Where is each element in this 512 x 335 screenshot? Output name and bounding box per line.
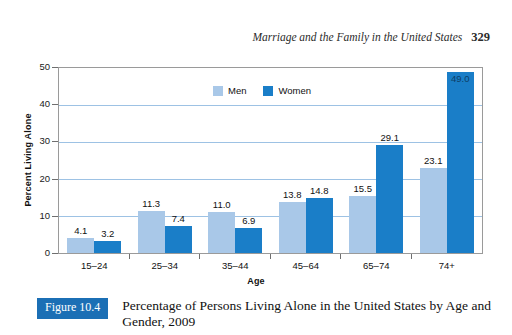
bar-group-15-24: 4.1 3.2 — [59, 68, 130, 253]
bar-value-women: 7.4 — [172, 213, 185, 224]
bar-value-men: 15.5 — [354, 183, 373, 194]
bar-wrap-women: 14.8 — [306, 68, 333, 253]
y-tick-mark-20 — [52, 179, 58, 180]
bar-women[interactable]: 49.0 — [447, 72, 474, 253]
x-tick-mark-5 — [411, 254, 412, 259]
bar-men[interactable]: 4.1 — [67, 238, 94, 253]
y-tick-label-10: 10 — [24, 210, 50, 221]
y-tick-mark-50 — [52, 67, 58, 68]
x-tick-mark-1 — [129, 254, 130, 259]
bar-value-men: 23.1 — [424, 155, 443, 166]
bar-group-65-74: 15.5 29.1 — [341, 68, 412, 253]
x-label-25-34: 25–34 — [130, 260, 201, 271]
figure-block: Percent Living Alone 50 40 30 20 10 0 Me… — [0, 55, 512, 335]
x-tick-mark-2 — [199, 254, 200, 259]
bar-men[interactable]: 13.8 — [279, 202, 306, 253]
y-tick-label-0: 0 — [24, 247, 50, 258]
bar-wrap-men: 23.1 — [420, 68, 447, 253]
bar-value-men: 11.3 — [142, 198, 160, 209]
x-label-45-64: 45–64 — [271, 260, 342, 271]
x-tick-mark-4 — [340, 254, 341, 259]
bar-value-women: 29.1 — [381, 132, 400, 143]
bar-value-women: 6.9 — [242, 215, 255, 226]
x-label-35-44: 35–44 — [200, 260, 271, 271]
bar-groups: 4.1 3.2 11.3 7.4 — [59, 68, 482, 253]
bar-wrap-women: 49.0 — [447, 68, 474, 253]
bar-men[interactable]: 11.3 — [138, 211, 165, 253]
figure-caption-text: Percentage of Persons Living Alone in th… — [122, 298, 492, 331]
bar-group-25-34: 11.3 7.4 — [130, 68, 201, 253]
bar-women[interactable]: 29.1 — [376, 145, 403, 253]
y-tick-label-20: 20 — [24, 173, 50, 184]
bar-value-men: 13.8 — [283, 189, 302, 200]
y-tick-label-50: 50 — [24, 61, 50, 72]
x-axis-labels: 15–24 25–34 35–44 45–64 65–74 74+ — [59, 260, 482, 271]
bar-wrap-women: 3.2 — [94, 68, 121, 253]
x-label-15-24: 15–24 — [59, 260, 130, 271]
page-number: 329 — [471, 30, 490, 44]
running-head: Marriage and the Family in the United St… — [252, 30, 490, 45]
bar-women[interactable]: 3.2 — [94, 241, 121, 253]
x-label-65-74: 65–74 — [341, 260, 412, 271]
bar-men[interactable]: 23.1 — [420, 168, 447, 254]
y-tick-mark-30 — [52, 141, 58, 142]
bar-value-women: 3.2 — [101, 228, 114, 239]
bar-wrap-women: 6.9 — [235, 68, 262, 253]
bar-men[interactable]: 15.5 — [349, 196, 376, 253]
y-tick-mark-40 — [52, 104, 58, 105]
bar-women[interactable]: 7.4 — [165, 226, 192, 253]
figure-caption: Figure 10.4 Percentage of Persons Living… — [0, 298, 512, 331]
bar-wrap-men: 4.1 — [67, 68, 94, 253]
figure-number-badge: Figure 10.4 — [37, 298, 108, 319]
bar-group-74-plus: 23.1 49.0 — [412, 68, 483, 253]
bar-wrap-women: 7.4 — [165, 68, 192, 253]
bar-group-45-64: 13.8 14.8 — [271, 68, 342, 253]
bar-wrap-men: 15.5 — [349, 68, 376, 253]
bar-women[interactable]: 6.9 — [235, 228, 262, 254]
bar-group-35-44: 11.0 6.9 — [200, 68, 271, 253]
x-axis-title: Age — [0, 276, 512, 286]
bar-women[interactable]: 14.8 — [306, 198, 333, 253]
bar-value-men: 4.1 — [74, 225, 87, 236]
bar-wrap-women: 29.1 — [376, 68, 403, 253]
bar-chart: Percent Living Alone 50 40 30 20 10 0 Me… — [0, 55, 512, 283]
bar-value-women: 49.0 — [451, 73, 470, 84]
x-tick-mark-3 — [270, 254, 271, 259]
bar-value-women: 14.8 — [310, 185, 329, 196]
bar-value-men: 11.0 — [213, 199, 231, 210]
x-label-74-plus: 74+ — [412, 260, 483, 271]
y-tick-label-30: 30 — [24, 135, 50, 146]
y-tick-mark-10 — [52, 216, 58, 217]
bar-wrap-men: 13.8 — [279, 68, 306, 253]
bar-wrap-men: 11.0 — [208, 68, 235, 253]
y-tick-label-40: 40 — [24, 98, 50, 109]
running-head-title: Marriage and the Family in the United St… — [252, 31, 462, 43]
bar-men[interactable]: 11.0 — [208, 212, 235, 253]
bar-wrap-men: 11.3 — [138, 68, 165, 253]
